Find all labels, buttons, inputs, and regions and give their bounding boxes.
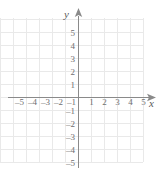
y-tick-label-pos5: 5 (61, 29, 75, 38)
x-tick-label-neg3: –3 (39, 98, 53, 107)
y-tick-label-pos3: 3 (61, 55, 75, 64)
y-tick-label-neg4: –4 (61, 146, 75, 155)
coordinate-plane-figure: y x –5 –4 –3 –2 –1 1 2 3 4 5 5 4 3 2 1 –… (0, 0, 162, 172)
x-tick-label-neg5: –5 (13, 98, 27, 107)
y-tick-label-pos4: 4 (61, 42, 75, 51)
y-tick-label-neg3: –3 (61, 133, 75, 142)
x-tick-label-pos1: 1 (85, 98, 99, 107)
x-tick-label-neg4: –4 (26, 98, 40, 107)
coordinate-plane-svg (0, 0, 162, 172)
y-tick-label-pos1: 1 (61, 81, 75, 90)
y-tick-label-neg2: –2 (61, 120, 75, 129)
x-tick-label-pos2: 2 (98, 98, 112, 107)
y-tick-label-neg1: –1 (61, 107, 75, 116)
axis-lines (8, 16, 150, 168)
y-axis-arrow-icon (75, 8, 82, 17)
y-tick-label-neg5: –5 (61, 159, 75, 168)
x-tick-label-pos5: 5 (137, 98, 151, 107)
y-tick-label-pos2: 2 (61, 68, 75, 77)
y-axis-label: y (64, 9, 69, 20)
x-tick-label-pos3: 3 (111, 98, 125, 107)
x-tick-label-pos4: 4 (124, 98, 138, 107)
